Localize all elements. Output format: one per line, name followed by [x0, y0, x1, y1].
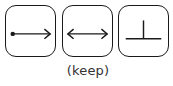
perpendicular-icon: [119, 6, 168, 56]
dot-arrow-button[interactable]: [5, 5, 56, 57]
double-headed-arrow-icon: [63, 6, 112, 56]
perpendicular-button[interactable]: [118, 5, 169, 57]
keep-caption: (keep): [62, 63, 114, 78]
double-arrow-button[interactable]: [62, 5, 113, 57]
dot-arrow-right-icon: [6, 6, 55, 56]
